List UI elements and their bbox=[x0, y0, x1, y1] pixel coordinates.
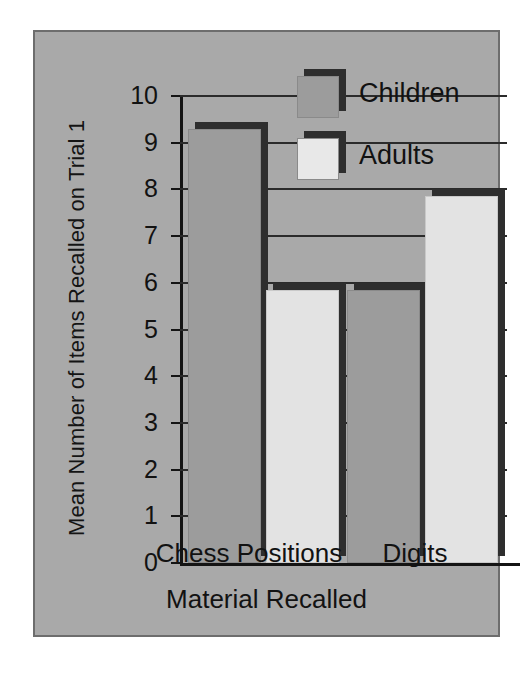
adults-swatch bbox=[297, 138, 339, 180]
y-axis-tick bbox=[171, 235, 180, 237]
y-tick-label: 9 bbox=[118, 130, 158, 155]
swatch-face bbox=[297, 76, 339, 118]
y-axis-tick bbox=[171, 188, 180, 190]
y-tick-label: 1 bbox=[118, 503, 158, 528]
y-axis-line bbox=[180, 96, 183, 565]
bar-face bbox=[266, 290, 339, 563]
bar-chart-figure: Mean Number of Items Recalled on Trial 1… bbox=[0, 0, 529, 681]
y-axis-tick bbox=[171, 142, 180, 144]
y-axis-tick bbox=[171, 95, 180, 97]
x-axis-title: Material Recalled bbox=[33, 584, 500, 615]
y-axis-tick bbox=[171, 515, 180, 517]
x-tick-label-digits: Digits bbox=[335, 538, 495, 569]
swatch-face bbox=[297, 138, 339, 180]
y-tick-label: 4 bbox=[118, 363, 158, 388]
chart-panel: Mean Number of Items Recalled on Trial 1… bbox=[33, 30, 500, 637]
y-tick-label: 10 bbox=[118, 83, 158, 108]
bar-face bbox=[188, 129, 261, 563]
y-tick-label: 6 bbox=[118, 270, 158, 295]
bar-face bbox=[347, 290, 420, 563]
y-tick-label: 5 bbox=[118, 317, 158, 342]
children-swatch bbox=[297, 76, 339, 118]
bar-children-chess-positions[interactable] bbox=[188, 129, 261, 563]
legend-label-adults: Adults bbox=[359, 140, 434, 171]
y-axis-tick bbox=[171, 422, 180, 424]
y-tick-label: 2 bbox=[118, 457, 158, 482]
legend-label-children: Children bbox=[359, 78, 460, 109]
y-tick-label: 8 bbox=[118, 176, 158, 201]
y-tick-label: 7 bbox=[118, 223, 158, 248]
y-axis-tick bbox=[171, 329, 180, 331]
bar-face bbox=[425, 196, 498, 563]
bar-adults-chess-positions[interactable] bbox=[266, 290, 339, 563]
y-tick-label: 3 bbox=[118, 410, 158, 435]
y-axis-tick bbox=[171, 282, 180, 284]
bar-adults-digits[interactable] bbox=[425, 196, 498, 563]
y-axis-tick bbox=[171, 469, 180, 471]
bar-children-digits[interactable] bbox=[347, 290, 420, 563]
y-axis-tick bbox=[171, 375, 180, 377]
y-axis-title: Mean Number of Items Recalled on Trial 1 bbox=[64, 98, 90, 558]
